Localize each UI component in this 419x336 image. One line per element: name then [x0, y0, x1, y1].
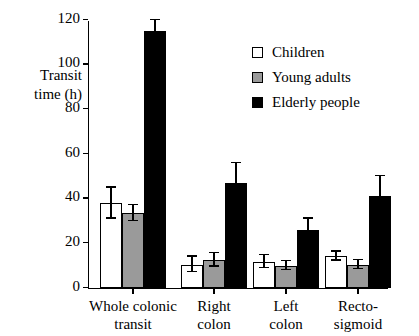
y-axis-tick-label: 40 — [65, 187, 80, 205]
y-axis-tick: 20 — [83, 242, 88, 243]
error-bar-cap — [259, 267, 269, 268]
error-bar-cap — [375, 215, 385, 216]
y-axis-tick-label: 60 — [65, 143, 80, 161]
error-bar-cap — [353, 259, 363, 260]
y-axis-tick: 120 — [83, 19, 88, 20]
error-bar-cap — [209, 265, 219, 266]
legend-swatch-children — [252, 47, 263, 58]
y-axis-tick: 0 — [83, 287, 88, 288]
x-axis-tick — [132, 289, 133, 294]
error-bar-cap — [187, 255, 197, 256]
legend-item: Elderly people — [252, 90, 412, 115]
error-bar-cap — [259, 254, 269, 255]
y-axis-tick: 40 — [83, 197, 88, 198]
error-bar-cap — [353, 268, 363, 269]
x-axis-tick — [213, 289, 214, 294]
y-axis-tick-label: 100 — [58, 53, 81, 71]
transit-time-bar-chart: Transit time (h) 020406080100120 Whole c… — [0, 0, 419, 336]
error-bar — [235, 163, 236, 203]
error-bar-cap — [375, 175, 385, 176]
error-bar-cap — [128, 204, 138, 205]
error-bar-cap — [106, 186, 116, 187]
error-bar-cap — [209, 252, 219, 253]
x-axis-tick — [285, 289, 286, 294]
error-bar-cap — [231, 162, 241, 163]
error-bar-cap — [150, 19, 160, 20]
error-bar-cap — [106, 217, 116, 218]
y-axis-line — [88, 21, 89, 289]
error-bar — [379, 176, 380, 216]
legend-label: Elderly people — [272, 94, 360, 111]
error-bar-cap — [187, 271, 197, 272]
error-bar — [110, 188, 111, 219]
x-axis-category-label-line: sigmoid — [288, 315, 419, 333]
y-axis-tick-label: 80 — [65, 98, 80, 116]
bar — [144, 31, 166, 288]
error-bar-cap — [150, 41, 160, 42]
error-bar-cap — [331, 259, 341, 260]
x-axis-tick — [357, 289, 358, 294]
legend-label: Young adults — [272, 69, 351, 86]
legend-label: Children — [272, 44, 325, 61]
legend-swatch-elderly — [252, 97, 263, 108]
error-bar-cap — [281, 260, 291, 261]
error-bar — [154, 20, 155, 42]
error-bar-cap — [303, 217, 313, 218]
bar — [325, 256, 347, 288]
legend-swatch-young — [252, 72, 263, 83]
x-axis-category-label-line: Recto- — [288, 297, 419, 315]
error-bar-cap — [331, 250, 341, 251]
error-bar-cap — [128, 220, 138, 221]
error-bar-cap — [303, 240, 313, 241]
legend-item: Children — [252, 40, 412, 65]
y-axis-tick-label: 120 — [58, 9, 81, 27]
bar — [122, 213, 144, 288]
legend-item: Young adults — [252, 65, 412, 90]
y-axis-tick-label: 0 — [73, 277, 81, 295]
error-bar-cap — [231, 202, 241, 203]
error-bar — [307, 219, 308, 241]
error-bar-cap — [281, 269, 291, 270]
y-axis-tick-label: 20 — [65, 232, 80, 250]
y-axis-tick: 100 — [83, 63, 88, 64]
y-axis-tick: 60 — [83, 153, 88, 154]
legend: ChildrenYoung adultsElderly people — [252, 40, 412, 115]
y-axis-tick: 80 — [83, 108, 88, 109]
x-axis-category-label: Recto-sigmoid — [288, 297, 419, 333]
